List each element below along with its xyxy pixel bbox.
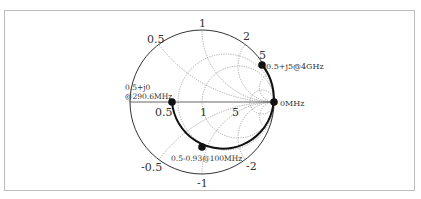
label-x-neg1: -1 (197, 177, 208, 190)
impedance-trajectory (172, 65, 274, 149)
x-arc-0.5 (130, 0, 418, 102)
label-x-5: 5 (259, 49, 266, 62)
label-x-1: 1 (199, 17, 206, 30)
label-point-290mhz-line2: @290.6MHz (125, 92, 172, 101)
label-x-0.5: 0.5 (147, 33, 165, 46)
label-x-neg2: -2 (246, 160, 257, 173)
label-x-neg0.5: -0.5 (141, 161, 162, 174)
label-point-290mhz-line1: 0.5+j0 (125, 83, 151, 92)
point-100mhz[interactable] (198, 143, 206, 151)
label-r-5: 5 (232, 106, 239, 119)
x-arc-neg1 (202, 102, 346, 199)
x-arc-1 (202, 0, 346, 102)
point-4ghz[interactable] (258, 61, 266, 69)
smith-chart: 1 0.5 2 5 0.5 1 5 -0.5 -1 -2 0.5+j5@4GHz… (0, 0, 421, 199)
label-point-100mhz: 0.5-0.93@100MHz (171, 154, 242, 163)
label-point-4ghz: 0.5+j5@4GHz (266, 62, 324, 71)
point-0mhz[interactable] (270, 98, 278, 106)
label-x-2: 2 (243, 30, 250, 43)
x-arc-neg0.5 (130, 102, 418, 199)
label-r-0.5: 0.5 (155, 106, 173, 119)
label-point-0mhz: 0MHz (280, 99, 304, 108)
label-r-1: 1 (200, 106, 207, 119)
